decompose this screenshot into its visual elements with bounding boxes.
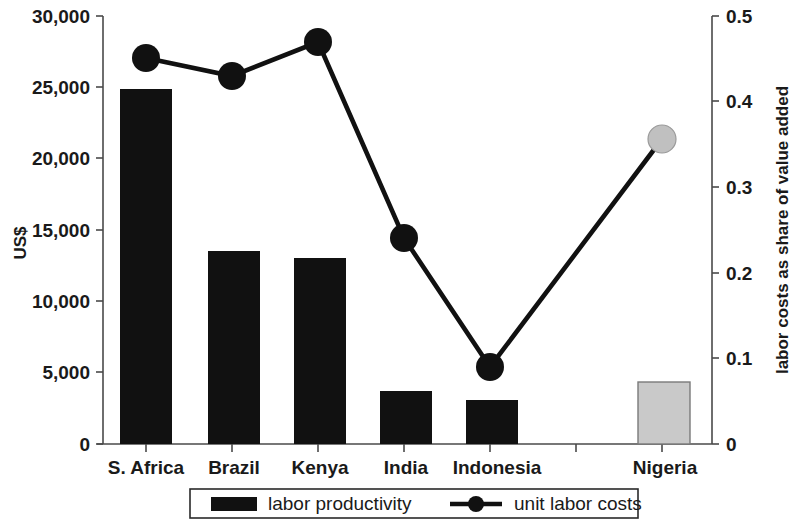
legend-marker-unit-labor-costs	[468, 496, 484, 512]
right-tick-label: 0.3	[726, 177, 752, 198]
left-axis-ticks	[96, 16, 103, 444]
left-tick-label: 20,000	[32, 148, 90, 169]
right-axis-title: labor costs as share of value added	[773, 86, 792, 374]
category-label-india: India	[384, 457, 429, 478]
category-labels: S. Africa Brazil Kenya India Indonesia N…	[108, 457, 698, 478]
bar-indonesia	[466, 400, 518, 444]
category-label-nigeria: Nigeria	[633, 457, 698, 478]
chart-svg: 30,000 25,000 20,000 15,000 10,000 5,000…	[0, 0, 804, 520]
category-label-kenya: Kenya	[291, 457, 348, 478]
bar-india	[380, 391, 432, 444]
right-tick-label: 0	[726, 434, 737, 455]
legend-label-unit-labor-costs: unit labor costs	[514, 493, 642, 514]
left-axis-title: US$	[11, 226, 30, 260]
bar-brazil	[208, 251, 260, 444]
left-tick-label: 15,000	[32, 220, 90, 241]
marker-kenya	[304, 28, 332, 56]
bar-series-labor-productivity	[120, 89, 690, 444]
category-label-s-africa: S. Africa	[108, 457, 185, 478]
category-label-indonesia: Indonesia	[453, 457, 542, 478]
left-tick-label: 5,000	[42, 362, 90, 383]
legend-label-labor-productivity: labor productivity	[268, 493, 412, 514]
category-label-brazil: Brazil	[208, 457, 260, 478]
bar-nigeria	[638, 382, 690, 444]
right-tick-label: 0.4	[726, 91, 753, 112]
marker-india	[390, 224, 418, 252]
left-tick-label: 25,000	[32, 77, 90, 98]
bar-kenya	[294, 258, 346, 444]
left-tick-label: 0	[79, 434, 90, 455]
left-tick-label: 30,000	[32, 6, 90, 27]
marker-brazil	[218, 62, 246, 90]
bar-s-africa	[120, 89, 172, 444]
right-axis-tick-labels: 0.5 0.4 0.3 0.2 0.1 0	[726, 6, 753, 455]
marker-nigeria	[648, 125, 676, 153]
left-axis-tick-labels: 30,000 25,000 20,000 15,000 10,000 5,000…	[32, 6, 90, 455]
right-tick-label: 0.1	[726, 348, 753, 369]
category-ticks	[146, 444, 662, 452]
legend: labor productivity unit labor costs	[190, 489, 642, 518]
right-tick-label: 0.5	[726, 6, 753, 27]
marker-s-africa	[132, 44, 160, 72]
right-axis-ticks	[712, 16, 719, 444]
right-tick-label: 0.2	[726, 263, 752, 284]
left-tick-label: 10,000	[32, 291, 90, 312]
chart-container: 30,000 25,000 20,000 15,000 10,000 5,000…	[0, 0, 804, 520]
legend-swatch-labor-productivity	[211, 497, 257, 511]
marker-indonesia	[476, 353, 504, 381]
